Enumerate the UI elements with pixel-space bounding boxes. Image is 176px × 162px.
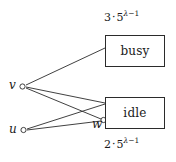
rate-label-top: 3·5λ−1	[104, 9, 139, 24]
rate-top-base: 5	[117, 11, 124, 24]
edge-layer	[0, 0, 176, 162]
rate-top-exponent: λ−1	[124, 9, 140, 18]
rate-bottom-exponent: λ−1	[124, 136, 140, 145]
node-marker-u	[21, 127, 26, 132]
state-box-busy-label: busy	[120, 44, 149, 58]
node-label-w: w	[92, 117, 102, 131]
rate-label-bottom: 2·5λ−1	[104, 136, 139, 151]
node-marker-v	[20, 84, 25, 89]
node-label-u: u	[9, 122, 17, 136]
diagram-figure: busy idle 3·5λ−1 2·5λ−1 v u w	[0, 0, 176, 162]
state-box-idle-label: idle	[123, 106, 146, 120]
rate-top-exponent-one: 1	[135, 9, 140, 18]
edge-v-idle	[26, 87, 105, 103]
state-box-busy: busy	[105, 35, 165, 67]
edge-v-busy	[26, 48, 105, 85]
rate-bottom-base: 5	[117, 138, 124, 151]
rate-top-coefficient: 3	[104, 11, 111, 24]
edge-v-w	[26, 88, 101, 119]
rate-bottom-coefficient: 2	[104, 138, 111, 151]
rate-bottom-exponent-one: 1	[135, 136, 140, 145]
node-label-v: v	[9, 78, 16, 92]
state-box-idle: idle	[105, 97, 165, 129]
